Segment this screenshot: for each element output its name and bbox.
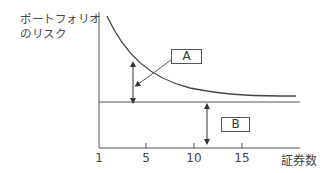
x-tick-label-10: 10 [186, 151, 201, 165]
y-axis-label: ポートフォリオ のリスク [20, 12, 101, 42]
x-axis-label: 証券数 [281, 151, 317, 168]
annotation-box-a: A [171, 49, 202, 64]
y-axis-label-line-1: ポートフォリオ [20, 12, 101, 27]
x-tick-label-1: 1 [95, 151, 103, 165]
x-tick-label-15: 15 [234, 151, 249, 165]
annotation-b-label: B [231, 117, 239, 131]
x-tick-label-5: 5 [142, 151, 150, 165]
annotation-a-label: A [182, 49, 190, 63]
annotation-box-b: B [221, 117, 250, 132]
y-axis-label-line-2: のリスク [20, 27, 101, 42]
